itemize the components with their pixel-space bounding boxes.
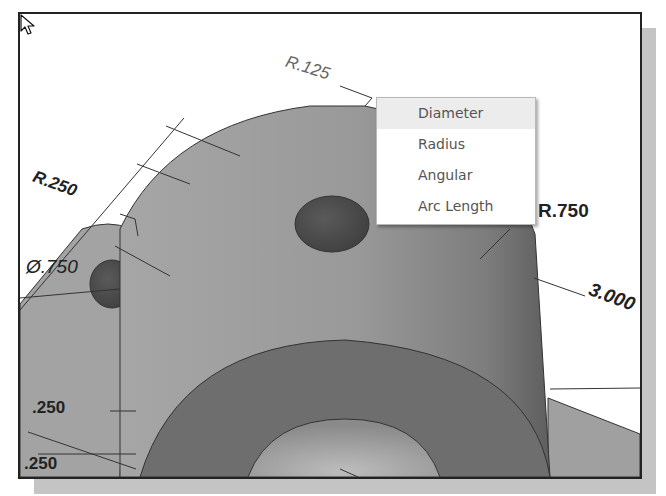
menu-item-radius[interactable]: Radius xyxy=(377,129,535,160)
dimension-250-lower[interactable]: .250 xyxy=(24,454,57,474)
3d-model-render[interactable] xyxy=(20,14,640,477)
menu-item-angular[interactable]: Angular xyxy=(377,160,535,191)
cad-graphics-viewport[interactable]: R.125 R.250 Ø.750 R.750 3.000 .250 .250 … xyxy=(18,12,642,479)
menu-item-arc-length[interactable]: Arc Length xyxy=(377,191,535,222)
menu-item-diameter[interactable]: Diameter xyxy=(377,98,535,129)
dimension-diameter-750[interactable]: Ø.750 xyxy=(26,256,78,278)
top-hole xyxy=(295,196,369,252)
mouse-pointer-icon xyxy=(20,14,36,36)
dimension-r750[interactable]: R.750 xyxy=(538,200,589,222)
dimension-type-context-menu: Diameter Radius Angular Arc Length xyxy=(376,97,536,225)
base-flange-right xyxy=(548,398,640,477)
dimension-250-upper[interactable]: .250 xyxy=(32,398,65,418)
